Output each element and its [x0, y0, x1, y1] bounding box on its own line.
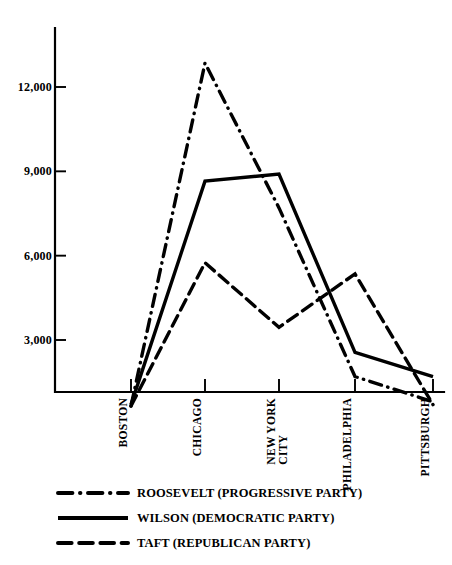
line-chart: 3,0006,0009,00012,000 BOSTONCHICAGONEW Y… — [0, 0, 452, 565]
axis-ticks — [55, 87, 433, 392]
series-line-1 — [131, 63, 433, 406]
chart-canvas — [0, 0, 452, 565]
y-tick-label: 6,000 — [0, 248, 52, 263]
y-tick-label: 12,000 — [0, 80, 52, 95]
chart-axes — [55, 28, 444, 392]
legend-item-label: WILSON (DEMOCRATIC PARTY) — [137, 511, 334, 526]
x-tick-label: PHILADELPHIA — [341, 398, 353, 490]
legend-swatches — [58, 493, 128, 543]
x-tick-label: NEW YORK CITY — [265, 398, 290, 465]
legend-item[interactable]: WILSON (DEMOCRATIC PARTY) — [137, 509, 334, 527]
x-tick-label: PITTSBURGH — [419, 398, 431, 476]
x-tick-label: CHICAGO — [191, 398, 203, 456]
y-tick-label: 9,000 — [0, 164, 52, 179]
series-line-2 — [131, 174, 433, 405]
legend-item[interactable]: TAFT (REPUBLICAN PARTY) — [137, 534, 310, 552]
series-line-3 — [131, 263, 433, 406]
data-series-group — [131, 63, 433, 406]
legend-item-label: TAFT (REPUBLICAN PARTY) — [137, 536, 310, 551]
y-tick-label: 3,000 — [0, 333, 52, 348]
legend-item[interactable]: ROOSEVELT (PROGRESSIVE PARTY) — [137, 484, 362, 502]
legend-item-label: ROOSEVELT (PROGRESSIVE PARTY) — [137, 486, 362, 501]
x-tick-label: BOSTON — [117, 398, 129, 448]
